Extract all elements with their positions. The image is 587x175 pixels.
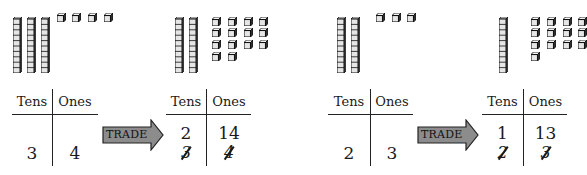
unit-cube-icon [88, 13, 97, 22]
unit-cube-icon [228, 17, 237, 26]
unit-cube-icon [259, 28, 268, 37]
ones-header: Ones [524, 95, 567, 109]
unit-cube-icon [578, 40, 587, 49]
unit-cube-icon [244, 17, 253, 26]
tens-header: Tens [12, 95, 52, 109]
tens-rod-icon [41, 17, 50, 73]
unit-cube-icon [392, 13, 401, 22]
unit-cube-icon [228, 40, 237, 49]
unit-cube-icon [563, 17, 572, 26]
unit-cube-icon [563, 28, 572, 37]
tens-new-value: 2 [166, 124, 206, 142]
ones-value: 3 [371, 144, 413, 162]
table-divider [482, 114, 567, 115]
tens-crossed-value: 2 [482, 144, 523, 162]
unit-cube-icon [212, 17, 221, 26]
trade-label: TRADE [421, 129, 462, 141]
ones-crossed-value: 4 [207, 144, 251, 162]
unit-cube-icon [547, 40, 556, 49]
unit-cube-icon [72, 13, 81, 22]
ones-header: Ones [53, 95, 97, 109]
unit-cube-icon [563, 40, 572, 49]
unit-cube-icon [212, 52, 221, 61]
unit-cube-icon [228, 28, 237, 37]
unit-cube-icon [531, 40, 540, 49]
tens-new-value: 1 [482, 124, 523, 142]
unit-cube-icon [244, 28, 253, 37]
tens-value: 3 [12, 144, 52, 162]
ones-header: Ones [371, 95, 413, 109]
tens-rod-icon [337, 17, 346, 73]
table-divider [12, 114, 98, 115]
tens-header: Tens [482, 95, 523, 109]
tens-header: Tens [166, 95, 206, 109]
tens-rod-icon [499, 17, 508, 73]
tens-rod-icon [175, 17, 184, 73]
unit-cube-icon [212, 40, 221, 49]
unit-cube-icon [578, 28, 587, 37]
tens-value: 2 [328, 144, 370, 162]
unit-cube-icon [407, 13, 416, 22]
unit-cube-icon [228, 52, 237, 61]
unit-cube-icon [259, 17, 268, 26]
unit-cube-icon [259, 40, 268, 49]
tens-rod-icon [351, 17, 360, 73]
unit-cube-icon [376, 13, 385, 22]
ones-value: 4 [53, 144, 97, 162]
ones-new-value: 14 [207, 124, 251, 142]
unit-cube-icon [547, 28, 556, 37]
ones-header: Ones [207, 95, 251, 109]
tens-crossed-value: 3 [166, 144, 206, 162]
unit-cube-icon [244, 40, 253, 49]
tens-rod-icon [27, 17, 36, 73]
unit-cube-icon [547, 17, 556, 26]
unit-cube-icon [578, 17, 587, 26]
tens-rod-icon [189, 17, 198, 73]
unit-cube-icon [57, 13, 66, 22]
unit-cube-icon [104, 13, 113, 22]
tens-header: Tens [328, 95, 370, 109]
ones-new-value: 13 [524, 124, 567, 142]
table-divider [166, 114, 251, 115]
unit-cube-icon [531, 17, 540, 26]
unit-cube-icon [531, 52, 540, 61]
unit-cube-icon [212, 28, 221, 37]
tens-rod-icon [13, 17, 22, 73]
unit-cube-icon [531, 28, 540, 37]
ones-crossed-value: 3 [524, 144, 567, 162]
trade-label: TRADE [106, 129, 147, 141]
